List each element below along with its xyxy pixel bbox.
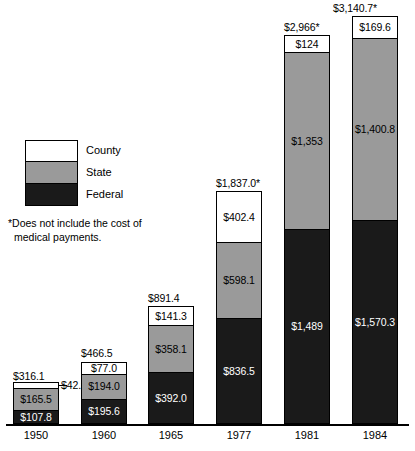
bar-segment-federal-1981: $1,489: [285, 230, 329, 423]
bar-total-label-1981: $2,966*: [284, 22, 320, 33]
bar-segment-federal-1950: $107.8: [14, 411, 58, 423]
bar-total-label-1965: $891.4: [148, 293, 180, 304]
axis-baseline: [6, 424, 409, 426]
bar-segment-label-county-1977: $402.4: [223, 212, 255, 223]
bar-segment-label-federal-1965: $392.0: [155, 393, 187, 404]
bar-segment-county-1965: $141.3: [149, 307, 193, 326]
bar-segment-state-1960: $194.0: [82, 375, 126, 400]
bar-segment-label-state-1950: $165.5: [20, 394, 52, 405]
bar-1984[interactable]: $169.6 $1,400.8 $1,570.3: [352, 16, 398, 424]
bar-segment-county-1984: $169.6: [353, 17, 397, 39]
bar-1981[interactable]: $124 $1,353 $1,489: [284, 35, 330, 424]
bar-1950[interactable]: $165.5 $107.8: [13, 382, 59, 424]
bar-segment-federal-1984: $1,570.3: [353, 221, 397, 423]
bar-segment-label-state-1981: $1,353: [291, 136, 323, 147]
bar-segment-label-federal-1950: $107.8: [20, 412, 52, 423]
bar-total-label-1984: $3,140.7*: [333, 3, 377, 14]
bar-segment-county-1960: $77.0: [82, 363, 126, 375]
x-axis-tick-1960: 1960: [81, 430, 127, 441]
bar-1965[interactable]: $141.3 $358.1 $392.0: [148, 306, 194, 424]
bar-segment-state-1984: $1,400.8: [353, 39, 397, 221]
bar-segment-label-county-1965: $141.3: [155, 311, 187, 322]
bar-segment-label-state-1960: $194.0: [88, 381, 120, 392]
x-axis-tick-1965: 1965: [148, 430, 194, 441]
bar-segment-label-federal-1981: $1,489: [291, 321, 323, 332]
bar-segment-label-county-1984: $169.6: [359, 22, 391, 33]
stacked-bar-chart: $316.1 $165.5 $107.8 $42.9 $466.5 $77.0 …: [0, 0, 415, 451]
bar-segment-label-state-1965: $358.1: [155, 344, 187, 355]
bar-segment-label-county-1981: $124: [296, 39, 319, 50]
legend-swatch-federal: [26, 184, 77, 205]
bar-total-label-1977: $1,837.0*: [216, 178, 260, 189]
bar-segment-label-federal-1977: $836.5: [223, 366, 255, 377]
bar-segment-state-1977: $598.1: [217, 243, 261, 319]
bar-segment-label-state-1977: $598.1: [223, 275, 255, 286]
bar-segment-county-1981: $124: [285, 36, 329, 53]
bar-total-label-1950: $316.1: [13, 371, 45, 382]
bar-segment-county-1977: $402.4: [217, 192, 261, 243]
bar-1960[interactable]: $77.0 $194.0 $195.6: [81, 362, 127, 424]
bar-segment-state-1965: $358.1: [149, 326, 193, 373]
x-axis-tick-1977: 1977: [216, 430, 262, 441]
legend-label-county: County: [86, 145, 121, 156]
bar-segment-state-1950: $165.5: [14, 389, 58, 411]
legend-label-federal: Federal: [86, 189, 123, 200]
bar-segment-label-federal-1960: $195.6: [88, 406, 120, 417]
bar-segment-federal-1977: $836.5: [217, 319, 261, 423]
bar-segment-label-county-1960: $77.0: [91, 363, 117, 374]
x-axis-tick-1950: 1950: [13, 430, 59, 441]
bar-segment-state-1981: $1,353: [285, 53, 329, 230]
footnote: *Does not include the cost of medical pa…: [8, 216, 188, 244]
bar-segment-label-state-1984: $1,400.8: [355, 124, 395, 135]
legend-swatch-county: [26, 141, 77, 162]
x-axis-tick-1984: 1984: [352, 430, 398, 441]
legend-label-state: State: [86, 167, 112, 178]
legend-swatch-state: [26, 162, 77, 183]
bar-segment-federal-1965: $392.0: [149, 373, 193, 423]
x-axis-tick-1981: 1981: [284, 430, 330, 441]
plot-area: $316.1 $165.5 $107.8 $42.9 $466.5 $77.0 …: [0, 0, 415, 425]
bar-1977[interactable]: $402.4 $598.1 $836.5: [216, 191, 262, 424]
bar-segment-federal-1960: $195.6: [82, 400, 126, 424]
footnote-line-1: *Does not include the cost of: [8, 217, 142, 229]
bar-segment-label-federal-1984: $1,570.3: [355, 317, 395, 328]
footnote-line-2: medical payments.: [8, 230, 188, 244]
legend-swatches: [25, 140, 78, 206]
bar-total-label-1960: $466.5: [81, 348, 113, 359]
